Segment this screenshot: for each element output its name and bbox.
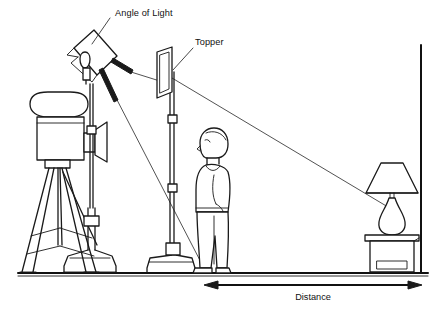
film-camera-on-tripod	[20, 92, 107, 272]
camera-magazine	[30, 92, 88, 117]
diagram-canvas: Angle of Light Topper Distance	[0, 0, 446, 311]
topper-text: Topper	[195, 37, 224, 47]
distance-dimension: Distance	[204, 281, 422, 302]
lighting-setup-diagram: Angle of Light Topper Distance	[0, 0, 446, 311]
barn-door-lower	[99, 68, 118, 102]
table-lamp	[365, 163, 419, 272]
topper-panel	[157, 47, 172, 98]
label-angle-of-light: Angle of Light	[92, 8, 173, 44]
person-shoe-back	[216, 268, 231, 273]
distance-arrow-left	[204, 281, 218, 289]
topper-leader	[173, 48, 193, 70]
topper-flag-assembly	[147, 47, 195, 272]
label-topper: Topper	[173, 37, 224, 70]
barn-door-upper	[111, 58, 133, 74]
stand-knuckle	[87, 126, 96, 134]
person-shoe-front	[193, 268, 212, 273]
light-head-panel	[74, 30, 117, 75]
camera-lens-hood	[95, 122, 107, 162]
light-ray-lower	[115, 96, 206, 272]
lamp-shade	[366, 163, 418, 193]
yoke-knob	[83, 68, 90, 80]
light-yoke	[80, 52, 90, 68]
topper-pole-knuckle-mid	[168, 184, 177, 192]
light-ray-group	[115, 72, 398, 272]
stand-base-collar	[84, 216, 99, 226]
angle-of-light-text: Angle of Light	[115, 8, 173, 18]
distance-arrow-right	[408, 281, 422, 289]
side-table-top	[365, 235, 419, 241]
topper-pole-knuckle-top	[168, 115, 177, 123]
distance-text: Distance	[295, 292, 331, 302]
tripod-head	[45, 160, 70, 168]
person-legs	[197, 212, 228, 268]
topper-base-collar	[166, 243, 180, 255]
standing-person	[193, 128, 231, 273]
person-head	[200, 128, 228, 158]
topper-base	[147, 255, 172, 272]
